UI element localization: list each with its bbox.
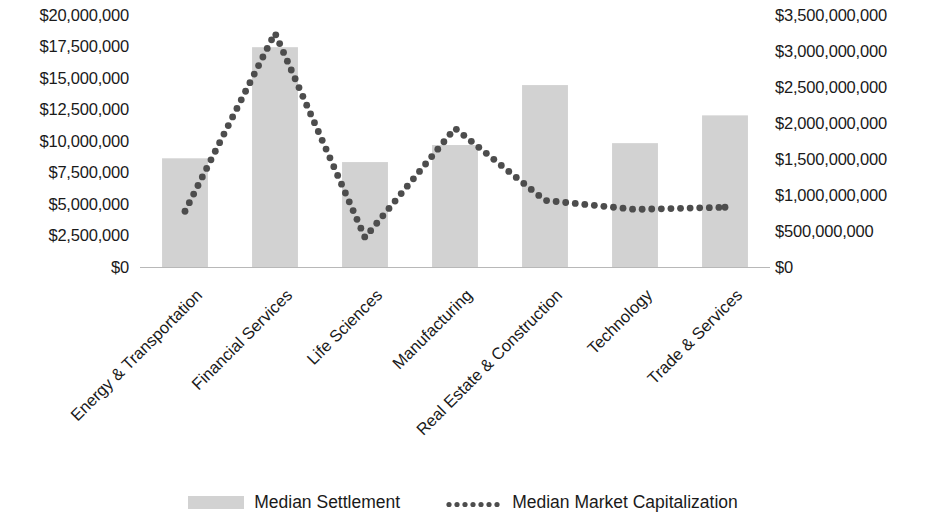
right-axis-tick: $2,000,000,000 bbox=[775, 115, 887, 132]
bar[interactable] bbox=[522, 85, 568, 267]
line-dot bbox=[483, 150, 490, 157]
line-dot bbox=[284, 58, 291, 65]
left-axis-tick: $2,500,000 bbox=[48, 227, 129, 244]
line-dot bbox=[490, 156, 497, 163]
legend-item-median-market-capitalization[interactable]: Median Market Capitalization bbox=[446, 492, 738, 512]
line-dot bbox=[629, 206, 636, 213]
line-dot bbox=[234, 105, 241, 112]
bar[interactable] bbox=[612, 143, 658, 267]
line-dot bbox=[186, 199, 193, 206]
line-dot bbox=[422, 161, 429, 168]
line-dot bbox=[315, 128, 322, 135]
line-dot bbox=[428, 153, 435, 160]
line-dot bbox=[722, 204, 729, 211]
line-dot bbox=[520, 180, 527, 187]
line-dot bbox=[334, 172, 341, 179]
right-axis-tick: $3,000,000,000 bbox=[775, 43, 887, 60]
line-dot bbox=[255, 62, 262, 69]
line-dot bbox=[677, 205, 684, 212]
line-dot bbox=[447, 131, 454, 138]
line-dot bbox=[280, 49, 287, 56]
line-dot bbox=[199, 174, 206, 181]
line-dot bbox=[296, 84, 303, 91]
category-label: Energy & Transportation bbox=[52, 286, 205, 439]
legend-item-median-settlement[interactable]: Median Settlement bbox=[188, 492, 400, 512]
line-dot bbox=[543, 197, 550, 204]
line-dot bbox=[373, 220, 380, 227]
line-dot bbox=[203, 165, 210, 172]
line-dot bbox=[513, 174, 520, 181]
line-dot bbox=[696, 204, 703, 211]
line-dot bbox=[307, 111, 314, 118]
left-axis-tick: $5,000,000 bbox=[48, 196, 129, 213]
line-dot bbox=[323, 146, 330, 153]
plot-canvas bbox=[140, 0, 770, 272]
line-dot bbox=[535, 192, 542, 199]
line-dot bbox=[379, 212, 386, 219]
bar[interactable] bbox=[702, 115, 748, 267]
line-dot bbox=[620, 205, 627, 212]
line-dot bbox=[658, 205, 665, 212]
line-dot bbox=[460, 132, 467, 139]
line-dot bbox=[610, 204, 617, 211]
line-dot bbox=[292, 75, 299, 82]
line-dot bbox=[299, 93, 306, 100]
line-dot bbox=[416, 168, 423, 175]
line-dot bbox=[716, 204, 723, 211]
line-dot bbox=[528, 186, 535, 193]
line-dot bbox=[639, 206, 646, 213]
line-dot bbox=[498, 162, 505, 169]
line-dot bbox=[212, 148, 219, 155]
line-dot bbox=[581, 201, 588, 208]
line-dot bbox=[404, 183, 411, 190]
right-value-axis: $3,500,000,000 $3,000,000,000 $2,500,000… bbox=[773, 0, 926, 290]
line-dot bbox=[208, 156, 215, 163]
line-dot bbox=[600, 203, 607, 210]
line-dot bbox=[264, 45, 271, 52]
left-axis-tick: $0 bbox=[111, 259, 129, 276]
line-dot bbox=[706, 204, 713, 211]
line-dot bbox=[229, 114, 236, 121]
line-dot bbox=[357, 225, 364, 232]
line-dot bbox=[272, 31, 279, 38]
line-dot bbox=[225, 122, 232, 129]
combo-chart: $20,000,000 $17,500,000 $15,000,000 $12,… bbox=[0, 0, 926, 524]
legend-label: Median Settlement bbox=[254, 492, 400, 512]
line-dot bbox=[350, 207, 357, 214]
left-axis-tick: $20,000,000 bbox=[39, 7, 129, 24]
line-dot bbox=[392, 198, 399, 205]
line-dot bbox=[251, 71, 258, 78]
line-dot bbox=[354, 216, 361, 223]
line-dot bbox=[591, 202, 598, 209]
line-dot bbox=[668, 205, 675, 212]
right-axis-tick: $500,000,000 bbox=[775, 223, 874, 240]
bar-swatch-icon bbox=[188, 496, 244, 509]
line-dot bbox=[410, 175, 417, 182]
line-dot bbox=[238, 96, 245, 103]
line-dot bbox=[276, 40, 283, 47]
line-dot bbox=[303, 102, 310, 109]
line-dot bbox=[330, 163, 337, 170]
line-dot bbox=[182, 208, 189, 215]
line-dot bbox=[195, 182, 202, 189]
line-dot bbox=[453, 126, 460, 133]
left-axis-tick: $7,500,000 bbox=[48, 164, 129, 181]
line-dot bbox=[190, 191, 197, 198]
line-dot bbox=[242, 88, 249, 95]
line-dot bbox=[475, 144, 482, 151]
bar[interactable] bbox=[252, 47, 298, 267]
line-dot bbox=[319, 137, 326, 144]
line-dot bbox=[648, 206, 655, 213]
line-dot bbox=[342, 190, 349, 197]
left-axis-tick: $17,500,000 bbox=[39, 38, 129, 55]
line-dot bbox=[687, 205, 694, 212]
left-axis-tick: $12,500,000 bbox=[39, 101, 129, 118]
line-dot bbox=[441, 138, 448, 145]
line-dot bbox=[221, 131, 228, 138]
bar[interactable] bbox=[432, 145, 478, 267]
dotted-line-swatch-icon bbox=[446, 496, 502, 509]
left-axis-tick: $15,000,000 bbox=[39, 70, 129, 87]
line-dot bbox=[361, 234, 368, 241]
line-dot bbox=[553, 198, 560, 205]
line-dot bbox=[572, 200, 579, 207]
